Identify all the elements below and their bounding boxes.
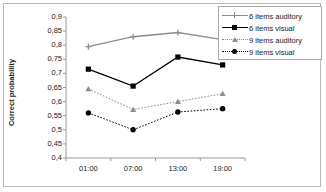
data-point	[86, 67, 91, 72]
legend-label: 9 items auditory	[249, 36, 302, 45]
legend-marker-star-icon	[231, 12, 237, 18]
series-line	[88, 109, 222, 130]
series-2	[86, 54, 225, 88]
legend-key-circle-icon	[221, 46, 249, 58]
legend-marker-square-icon	[232, 25, 237, 30]
data-point	[220, 106, 225, 111]
legend-key-triangle-icon	[221, 34, 249, 46]
legend-key-square-icon	[221, 22, 249, 34]
circle-icon	[232, 49, 237, 54]
series-4	[86, 106, 226, 133]
data-point	[175, 30, 181, 36]
series-3	[85, 86, 225, 112]
data-point	[85, 44, 91, 50]
data-point	[131, 83, 136, 88]
data-point	[85, 86, 91, 91]
chart-screenshot: Correct probability 0,90,850,80,750,70,6…	[0, 0, 326, 192]
series-line	[88, 57, 222, 86]
series-line	[88, 33, 222, 47]
data-point	[175, 54, 180, 59]
legend-label: 6 items auditory	[249, 12, 302, 21]
legend-label: 9 items visual	[249, 48, 294, 57]
data-point	[130, 34, 136, 40]
data-point	[175, 109, 180, 114]
data-point	[130, 127, 135, 132]
legend-key-star-icon	[221, 10, 249, 22]
legend-item: 6 items visual	[221, 22, 319, 34]
series-1	[85, 30, 225, 50]
legend-marker-circle-icon	[232, 49, 237, 54]
data-point	[220, 91, 226, 96]
data-point	[220, 62, 225, 67]
legend-marker-triangle-icon	[232, 37, 238, 42]
legend: 6 items auditory6 items visual9 items au…	[218, 6, 322, 60]
star-icon	[231, 12, 237, 18]
legend-item: 9 items visual	[221, 46, 319, 58]
square-icon	[232, 25, 237, 30]
legend-item: 6 items auditory	[221, 10, 319, 22]
series-line	[88, 89, 222, 110]
data-point	[86, 110, 91, 115]
triangle-icon	[232, 37, 238, 42]
legend-label: 6 items visual	[249, 24, 294, 33]
legend-item: 9 items auditory	[221, 34, 319, 46]
